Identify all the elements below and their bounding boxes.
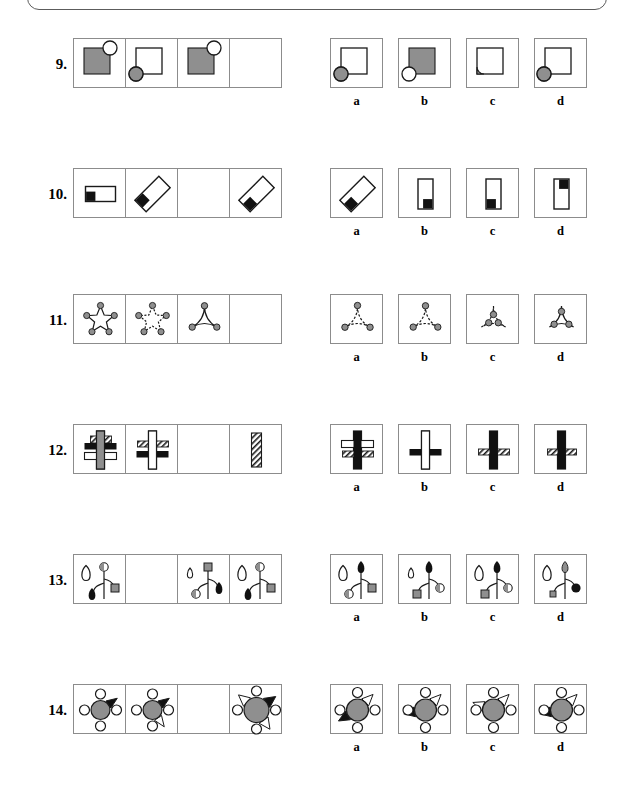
option-label: b (398, 94, 451, 109)
option-figure[interactable] (330, 424, 383, 474)
option-figure[interactable] (534, 168, 587, 218)
answer-option-b[interactable]: b (398, 294, 451, 365)
option-figure[interactable] (466, 294, 519, 344)
option-label: c (466, 480, 519, 495)
option-label: c (466, 350, 519, 365)
option-label: a (330, 740, 383, 755)
option-label: c (466, 94, 519, 109)
matrix-cell (73, 294, 126, 344)
answer-option-b[interactable]: b (398, 38, 451, 109)
answer-option-d[interactable]: d (534, 294, 587, 365)
option-figure[interactable] (398, 294, 451, 344)
matrix-cell-blank (229, 294, 282, 344)
option-label: a (330, 224, 383, 239)
problem-matrix (73, 424, 282, 474)
question-number: 13. (27, 572, 67, 589)
problem-matrix (73, 294, 282, 344)
answer-option-d[interactable]: d (534, 684, 587, 755)
answer-option-b[interactable]: b (398, 168, 451, 239)
answer-option-b[interactable]: b (398, 684, 451, 755)
answer-option-d[interactable]: d (534, 554, 587, 625)
answer-option-a[interactable]: a (330, 294, 383, 365)
option-figure[interactable] (330, 554, 383, 604)
option-figure[interactable] (330, 294, 383, 344)
answer-option-a[interactable]: a (330, 424, 383, 495)
test-page: 9.abcd10.abcd11.abcd12.abcd13.abcd14.abc… (0, 0, 633, 788)
matrix-cell (125, 294, 178, 344)
option-figure[interactable] (330, 684, 383, 734)
option-label: b (398, 480, 451, 495)
option-figure[interactable] (466, 554, 519, 604)
option-figure[interactable] (534, 554, 587, 604)
question-number: 11. (27, 312, 67, 329)
question-number: 9. (27, 56, 67, 73)
option-figure[interactable] (398, 38, 451, 88)
answer-option-c[interactable]: c (466, 554, 519, 625)
problem-matrix (73, 684, 282, 734)
matrix-cell (125, 684, 178, 734)
option-label: d (534, 610, 587, 625)
matrix-cell (177, 38, 230, 88)
option-label: a (330, 94, 383, 109)
option-figure[interactable] (534, 684, 587, 734)
header-panel-outline (27, 0, 607, 10)
matrix-cell (177, 554, 230, 604)
answer-option-b[interactable]: b (398, 554, 451, 625)
answer-option-a[interactable]: a (330, 168, 383, 239)
problem-matrix (73, 554, 282, 604)
option-figure[interactable] (466, 684, 519, 734)
option-figure[interactable] (534, 424, 587, 474)
question-number: 10. (27, 186, 67, 203)
answer-option-c[interactable]: c (466, 38, 519, 109)
matrix-cell (229, 684, 282, 734)
matrix-cell (125, 38, 178, 88)
option-label: b (398, 224, 451, 239)
answer-option-b[interactable]: b (398, 424, 451, 495)
matrix-cell (229, 168, 282, 218)
option-label: d (534, 740, 587, 755)
option-label: d (534, 480, 587, 495)
option-figure[interactable] (398, 168, 451, 218)
answer-option-d[interactable]: d (534, 38, 587, 109)
option-figure[interactable] (330, 168, 383, 218)
matrix-cell-blank (177, 168, 230, 218)
answer-option-c[interactable]: c (466, 424, 519, 495)
problem-matrix (73, 38, 282, 88)
option-figure[interactable] (534, 38, 587, 88)
option-label: b (398, 350, 451, 365)
answer-option-d[interactable]: d (534, 424, 587, 495)
problem-matrix (73, 168, 282, 218)
matrix-cell (73, 38, 126, 88)
option-figure[interactable] (398, 424, 451, 474)
option-label: d (534, 94, 587, 109)
option-figure[interactable] (398, 684, 451, 734)
option-label: b (398, 740, 451, 755)
matrix-cell-blank (177, 424, 230, 474)
option-figure[interactable] (466, 168, 519, 218)
option-label: a (330, 610, 383, 625)
option-figure[interactable] (466, 424, 519, 474)
option-figure[interactable] (398, 554, 451, 604)
option-label: a (330, 480, 383, 495)
answer-option-c[interactable]: c (466, 294, 519, 365)
matrix-cell (125, 424, 178, 474)
option-label: d (534, 350, 587, 365)
answer-option-c[interactable]: c (466, 684, 519, 755)
answer-option-d[interactable]: d (534, 168, 587, 239)
option-figure[interactable] (330, 38, 383, 88)
question-number: 14. (27, 702, 67, 719)
option-label: c (466, 740, 519, 755)
matrix-cell (73, 168, 126, 218)
answer-option-a[interactable]: a (330, 554, 383, 625)
option-figure[interactable] (534, 294, 587, 344)
answer-option-c[interactable]: c (466, 168, 519, 239)
matrix-cell (125, 168, 178, 218)
matrix-cell-blank (229, 38, 282, 88)
answer-option-a[interactable]: a (330, 38, 383, 109)
matrix-cell (73, 684, 126, 734)
option-label: b (398, 610, 451, 625)
option-figure[interactable] (466, 38, 519, 88)
question-number: 12. (27, 442, 67, 459)
option-label: c (466, 224, 519, 239)
answer-option-a[interactable]: a (330, 684, 383, 755)
